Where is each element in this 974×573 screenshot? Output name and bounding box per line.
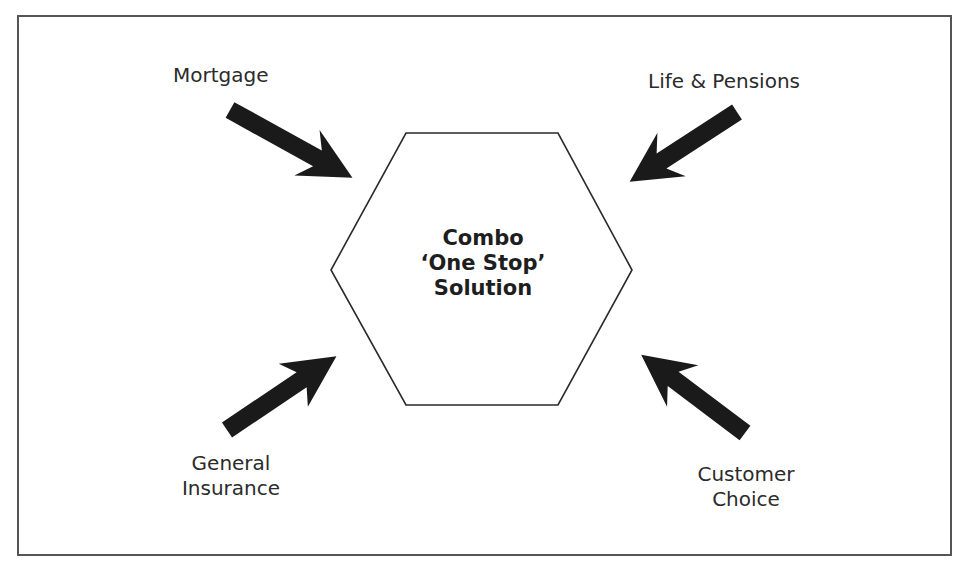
arrow-up-left-icon	[626, 334, 761, 454]
arrow-down-left-icon	[615, 90, 751, 203]
center-line-1: Combo	[380, 226, 586, 251]
label-life-pensions: Life & Pensions	[648, 69, 800, 94]
label-mortgage: Mortgage	[173, 63, 269, 88]
arrow-up-right-icon	[212, 335, 351, 452]
center-line-3: Solution	[380, 276, 586, 301]
label-customer-choice-line-2: Choice	[685, 487, 807, 512]
label-customer-choice-line-1: Customer	[685, 462, 807, 487]
center-title: Combo ‘One Stop’ Solution	[380, 226, 586, 301]
center-line-2: ‘One Stop’	[380, 251, 586, 276]
label-general-insurance-line-2: Insurance	[175, 476, 287, 501]
label-general-insurance: General Insurance	[175, 451, 287, 501]
label-general-insurance-line-1: General	[175, 451, 287, 476]
diagram-canvas: Combo ‘One Stop’ Solution Mortgage Life …	[0, 0, 974, 573]
label-customer-choice: Customer Choice	[685, 462, 807, 512]
arrow-down-right-icon	[217, 87, 365, 200]
